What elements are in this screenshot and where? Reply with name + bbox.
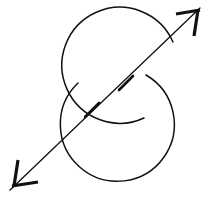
tick-mark-lower [85,103,99,117]
upper-left-circle-arc [62,7,173,123]
geometry-figure-svg [0,0,209,200]
figure-canvas [0,0,209,200]
lower-right-circle-arc [60,75,174,181]
diagonal-axis-line [10,8,200,190]
